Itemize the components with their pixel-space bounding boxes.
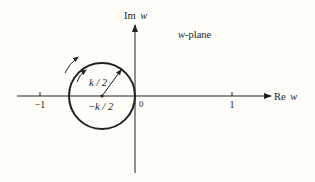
tick-label-origin: 0 <box>139 99 144 109</box>
w-plane-diagram: Im w Re w w-plane −1 0 1 k / 2 −k / 2 <box>0 0 315 182</box>
tick-label-minus-one: −1 <box>35 99 46 110</box>
plane-label: w-plane <box>178 29 212 40</box>
imag-axis-label: Im w <box>124 10 147 21</box>
center-label: −k / 2 <box>88 101 114 112</box>
radius-label: k / 2 <box>89 77 108 88</box>
tick-label-one: 1 <box>230 99 235 110</box>
real-axis-label: Re w <box>274 91 297 102</box>
direction-arrow-outer <box>65 57 78 73</box>
